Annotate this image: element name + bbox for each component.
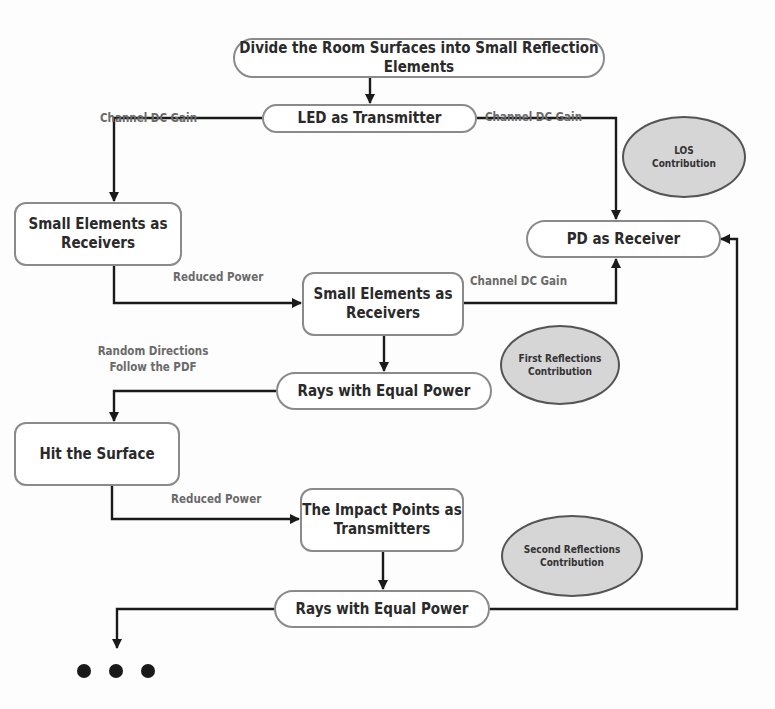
- node-pd-receiver: PD as Receiver: [526, 220, 721, 258]
- los-contribution-label: LOS Contribution: [649, 144, 719, 171]
- second-reflections-ellipse: Second Reflections Contribution: [501, 515, 643, 597]
- arrow-led-to-small-left: [114, 118, 262, 201]
- node-divide-surfaces: Divide the Room Surfaces into Small Refl…: [233, 38, 605, 78]
- first-reflections-label: First Reflections Contribution: [513, 352, 608, 379]
- node-rays-equal-power-2: Rays with Equal Power: [274, 590, 490, 628]
- edge-label-gain-left: Channel DC Gain: [100, 111, 197, 127]
- edge-label-gain-right: Channel DC Gain: [485, 110, 582, 126]
- arrow-rays1-to-hit: [114, 391, 276, 421]
- node-small-elements-receivers-left: Small Elements as Receivers: [14, 202, 182, 266]
- flowchart-canvas: Divide the Room Surfaces into Small Refl…: [0, 0, 775, 709]
- second-reflections-label: Second Reflections Contribution: [515, 543, 630, 570]
- node-hit-surface: Hit the Surface: [14, 422, 180, 486]
- random-directions-line2: Follow the PDF: [88, 360, 218, 376]
- arrow-led-to-pd: [477, 118, 616, 219]
- los-contribution-ellipse: LOS Contribution: [622, 116, 746, 198]
- continuation-dot: [141, 664, 155, 678]
- continuation-dot: [77, 664, 91, 678]
- continuation-dot: [109, 664, 123, 678]
- edge-label-reduced-power-1: Reduced Power: [173, 270, 263, 286]
- node-led-transmitter: LED as Transmitter: [262, 104, 477, 133]
- node-small-elements-receivers-mid: Small Elements as Receivers: [302, 272, 464, 336]
- first-reflections-ellipse: First Reflections Contribution: [500, 325, 620, 405]
- edge-label-reduced-power-2: Reduced Power: [171, 492, 261, 508]
- edge-label-gain-mid: Channel DC Gain: [470, 274, 567, 290]
- node-rays-equal-power-1: Rays with Equal Power: [276, 372, 492, 410]
- node-impact-points-transmitters: The Impact Points as Transmitters: [300, 488, 464, 552]
- arrow-rays2-to-continue: [117, 609, 274, 648]
- random-directions-line1: Random Directions: [88, 344, 218, 360]
- edge-label-random-directions: Random Directions Follow the PDF: [88, 344, 218, 375]
